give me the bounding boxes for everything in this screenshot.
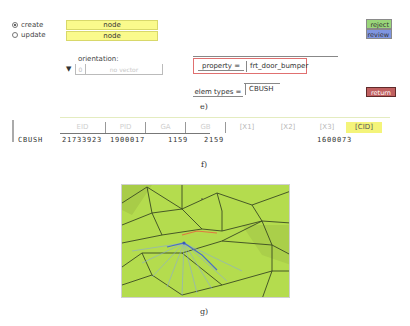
mesh-viewport[interactable] <box>121 184 290 298</box>
radio-create-indicator[interactable] <box>12 22 18 28</box>
col-pid[interactable]: PID <box>106 122 146 133</box>
property-field[interactable]: frt_door_bumper <box>246 61 304 72</box>
col-x2[interactable]: [X2] <box>268 122 308 133</box>
orientation-widget: ▼ 0 no vector <box>66 63 163 75</box>
header-underline <box>60 133 210 134</box>
radio-create-label: create <box>21 21 43 29</box>
caption-f: f) <box>196 160 212 169</box>
radio-update[interactable]: update <box>12 31 46 39</box>
col-x3[interactable]: [X3] <box>308 122 346 133</box>
table-row[interactable]: CBUSH 21733923 1900017 1159 2159 1600073 <box>18 136 398 144</box>
col-eid[interactable]: EID <box>60 122 106 133</box>
orientation-label: orientation: <box>78 55 119 63</box>
caption-e: e) <box>196 102 212 111</box>
table-top-rule <box>60 117 390 118</box>
property-top-rule <box>193 56 338 57</box>
reject-button[interactable]: reject <box>366 19 392 29</box>
update-entity-field[interactable]: node <box>66 31 158 41</box>
dropdown-arrow-icon[interactable]: ▼ <box>66 65 75 73</box>
cell-type: CBUSH <box>18 136 62 144</box>
return-button[interactable]: return <box>366 87 396 97</box>
mesh-graphic-icon <box>122 185 290 298</box>
orientation-vector-field[interactable]: no vector <box>85 64 163 75</box>
orientation-index[interactable]: 0 <box>75 64 85 75</box>
elem-types-label: elem types = <box>193 88 243 97</box>
radio-create[interactable]: create <box>12 21 43 29</box>
create-entity-field[interactable]: node <box>66 20 158 30</box>
cell-eid: 21733923 <box>62 136 110 144</box>
cell-cid: 1600073 <box>224 136 352 144</box>
elem-types-field[interactable]: CBUSH <box>245 84 285 95</box>
caption-g: g) <box>196 307 212 316</box>
table-left-bar <box>12 120 14 142</box>
col-gb[interactable]: GB <box>186 122 226 133</box>
cell-ga: 1159 <box>154 136 188 144</box>
radio-update-indicator[interactable] <box>12 32 18 38</box>
table-header: EID PID GA GB [X1] [X2] [X3] [CID] <box>60 122 382 133</box>
property-label: property = <box>198 62 244 71</box>
radio-update-label: update <box>21 31 46 39</box>
col-x1[interactable]: [X1] <box>226 122 268 133</box>
review-button[interactable]: review <box>366 29 392 39</box>
col-ga[interactable]: GA <box>146 122 186 133</box>
cell-pid: 1900017 <box>110 136 154 144</box>
col-cid[interactable]: [CID] <box>346 122 382 133</box>
cell-gb: 2159 <box>188 136 224 144</box>
